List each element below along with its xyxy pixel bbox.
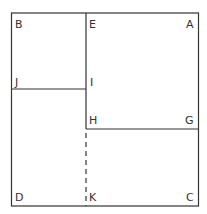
label-D: D (15, 191, 23, 204)
label-E: E (89, 18, 96, 31)
label-A: A (186, 18, 194, 31)
label-B: B (15, 18, 23, 31)
geometry-diagram: B E A J I H G D K C (0, 0, 207, 214)
label-C: C (186, 191, 194, 204)
label-I: I (90, 76, 93, 89)
label-G: G (185, 114, 194, 127)
label-K: K (89, 191, 97, 204)
outer-square-ABCD (12, 13, 199, 206)
label-H: H (89, 114, 97, 127)
label-J: J (14, 76, 18, 89)
